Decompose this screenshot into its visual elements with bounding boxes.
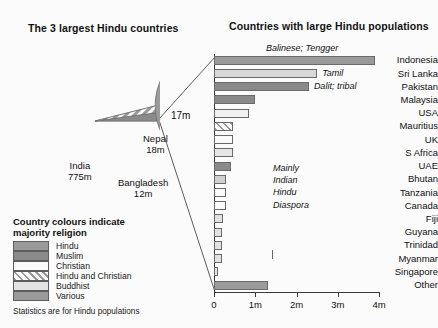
x-axis-tick-label: 0 xyxy=(211,299,216,310)
pie-chart: India 775m Nepal 18m Bangladesh 12m xyxy=(30,56,160,186)
x-axis-tick xyxy=(255,292,256,297)
bar-guyana xyxy=(214,228,222,237)
bar-s-africa xyxy=(214,148,233,157)
bar-fiji xyxy=(214,214,223,223)
pie-label-bangladesh: Bangladesh 12m xyxy=(118,178,168,199)
bar-singapore xyxy=(214,267,218,276)
legend-rows: HinduMuslimChristianHindu and ChristianB… xyxy=(13,241,183,301)
legend-item: Buddhist xyxy=(13,281,183,291)
category-label-sri-lanka: Sri Lanka xyxy=(398,68,438,79)
legend-swatch xyxy=(13,241,49,251)
annotation-pakistan: Dalit; tribal xyxy=(314,81,357,91)
legend-item: Muslim xyxy=(13,251,183,261)
x-axis-tick-label: 4m xyxy=(372,299,385,310)
category-label-pakistan: Pakistan xyxy=(402,81,438,92)
category-label-trinidad: Trinidad xyxy=(404,239,438,250)
legend-item-label: Christian xyxy=(56,261,90,271)
legend-swatch xyxy=(13,281,49,291)
bar-malaysia xyxy=(214,95,255,104)
bar-uae xyxy=(214,162,231,171)
category-label-uk: UK xyxy=(425,134,438,145)
x-axis-tick xyxy=(379,292,380,297)
bar-chart-plot-area: MainlyIndianHinduDiaspora Balinese; Teng… xyxy=(214,54,379,292)
bar-bhutan xyxy=(214,175,226,184)
x-axis-tick xyxy=(338,292,339,297)
legend-swatch xyxy=(13,291,49,301)
infographic-root: The 3 largest Hindu countries Countries … xyxy=(0,0,438,328)
bar-other xyxy=(214,281,268,290)
bar-chart-title: Countries with large Hindu populations xyxy=(229,20,429,32)
bar-chart: MainlyIndianHinduDiaspora Balinese; Teng… xyxy=(214,54,438,316)
bar-myanmar xyxy=(214,254,222,263)
x-axis-tick-label: 2m xyxy=(290,299,303,310)
diaspora-line: Diaspora xyxy=(273,199,309,211)
annotation-sri-lanka: Tamil xyxy=(322,68,343,78)
legend-swatch xyxy=(13,271,49,281)
bar-mauritius xyxy=(214,122,233,131)
category-label-guyana: Guyana xyxy=(405,226,438,237)
category-label-myanmar: Myanmar xyxy=(398,253,438,264)
bar-canada xyxy=(214,201,226,210)
legend-item-label: Various xyxy=(56,291,85,301)
callout-value-17m: 17m xyxy=(171,110,190,121)
legend-item: Various xyxy=(13,291,183,301)
category-label-uae: UAE xyxy=(418,160,438,171)
legend-item-label: Muslim xyxy=(56,251,83,261)
category-label-tanzania: Tanzania xyxy=(400,187,438,198)
legend-item: Hindu xyxy=(13,241,183,251)
bar-usa xyxy=(214,109,249,118)
category-label-canada: Canada xyxy=(405,200,438,211)
x-axis-tick-label: 1m xyxy=(249,299,262,310)
diaspora-annotation: MainlyIndianHinduDiaspora xyxy=(273,162,309,211)
x-axis-tick-label: 3m xyxy=(331,299,344,310)
legend-swatch xyxy=(13,251,49,261)
x-axis-tick xyxy=(214,292,215,297)
legend: Country colours indicate majority religi… xyxy=(13,216,183,316)
bar-tanzania xyxy=(214,188,226,197)
category-label-malaysia: Malaysia xyxy=(401,94,438,105)
category-label-singapore: Singapore xyxy=(395,266,438,277)
category-label-mauritius: Mauritius xyxy=(399,120,438,131)
legend-footnote: Statistics are for Hindu populations xyxy=(13,307,183,316)
pie-label-india: India 775m xyxy=(68,161,92,182)
diaspora-line: Mainly xyxy=(273,162,309,174)
category-label-indonesia: Indonesia xyxy=(397,54,438,65)
legend-item-label: Buddhist xyxy=(56,281,89,291)
bar-trinidad xyxy=(214,241,222,250)
legend-title: Country colours indicate majority religi… xyxy=(13,216,183,238)
category-label-s-africa: S Africa xyxy=(405,147,438,158)
pie-chart-title: The 3 largest Hindu countries xyxy=(28,22,179,34)
legend-item: Christian xyxy=(13,261,183,271)
bar-uk xyxy=(214,135,233,144)
category-label-other: Other xyxy=(414,279,438,290)
category-label-bhutan: Bhutan xyxy=(408,173,438,184)
annotation-indonesia: Balinese; Tengger xyxy=(266,43,338,53)
legend-item: Hindu and Christian xyxy=(13,271,183,281)
category-label-fiji: Fiji xyxy=(426,213,438,224)
bar-sri-lanka xyxy=(214,69,317,78)
category-label-usa: USA xyxy=(418,107,438,118)
pie-label-nepal: Nepal 18m xyxy=(143,134,168,155)
legend-swatch xyxy=(13,261,49,271)
bar-pakistan xyxy=(214,82,309,91)
legend-item-label: Hindu xyxy=(56,241,78,251)
diaspora-line: Hindu xyxy=(273,186,309,198)
myanmar-marker xyxy=(272,250,273,259)
diaspora-line: Indian xyxy=(273,174,309,186)
bar-indonesia xyxy=(214,56,375,65)
legend-item-label: Hindu and Christian xyxy=(56,271,131,281)
x-axis-tick xyxy=(297,292,298,297)
